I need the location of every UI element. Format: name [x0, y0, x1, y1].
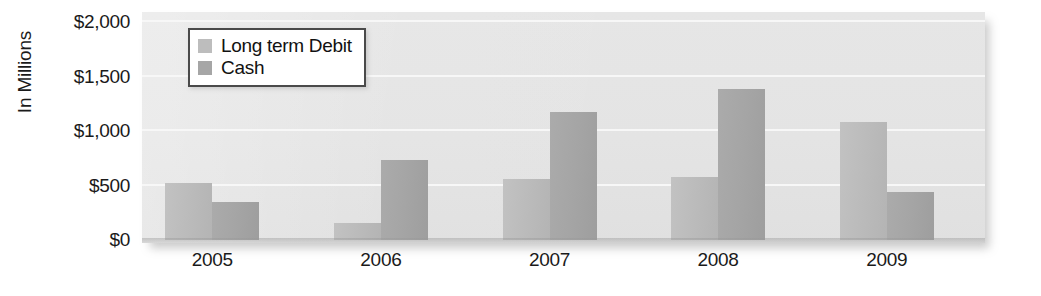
legend-label-long-term-debit: Long term Debit [221, 35, 352, 57]
bar-2008-long-term-debit [671, 177, 718, 240]
legend-swatch-icon-long-term-debit [198, 39, 212, 53]
x-axis-tick-labels: 20052006200720082009 [142, 249, 985, 279]
legend-item-long-term-debit: Long term Debit [198, 35, 352, 57]
legend-swatch-icon-cash [198, 61, 212, 75]
y-axis-tick-label: $0 [109, 229, 130, 251]
x-axis-tick-label: 2005 [192, 249, 233, 271]
bar-2006-cash [381, 160, 428, 240]
bar-chart-figure: In Millions $0$500$1,000$1,500$2,000 Lon… [0, 0, 1041, 296]
bar-2009-long-term-debit [840, 122, 887, 240]
bar-2007-cash [550, 112, 597, 240]
x-axis-tick-label: 2006 [360, 249, 401, 271]
bar-2007-long-term-debit [503, 179, 550, 240]
bar-2009-cash [887, 192, 934, 240]
x-axis-tick-label: 2007 [529, 249, 570, 271]
y-axis-tick-label: $2,000 [74, 11, 130, 33]
bar-2008-cash [718, 89, 765, 241]
x-axis-tick-label: 2008 [698, 249, 739, 271]
bar-2005-long-term-debit [165, 183, 212, 240]
x-axis-tick-label: 2009 [866, 249, 907, 271]
legend-label-cash: Cash [221, 57, 264, 79]
bar-2005-cash [212, 202, 259, 240]
y-axis-tick-label: $1,000 [74, 120, 130, 142]
y-axis-tick-label: $1,500 [74, 66, 130, 88]
legend-item-cash: Cash [198, 57, 352, 79]
chart-legend: Long term Debit Cash [188, 28, 366, 87]
baseline-shadow [142, 238, 985, 243]
y-axis-tick-labels: $0$500$1,000$1,500$2,000 [0, 0, 136, 296]
y-axis-tick-label: $500 [89, 175, 130, 197]
